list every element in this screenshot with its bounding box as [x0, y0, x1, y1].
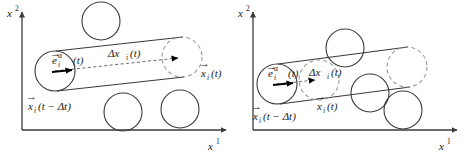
displacement-base: Δx	[107, 47, 119, 59]
swept-region-bottom-edge	[57, 77, 184, 91]
ghost-target-circle	[387, 47, 427, 87]
obstacle-circle	[161, 90, 199, 128]
y-axis-label: x 2	[6, 4, 19, 19]
short-displacement-panel: x 2 x 1	[235, 0, 469, 156]
obstacle-circle	[82, 2, 120, 40]
position-start-base: x	[252, 110, 258, 122]
x-axis-label-sup: 1	[216, 137, 220, 146]
y-axis-label-sup: 2	[15, 4, 19, 13]
position-start-arg: (t − Δt)	[263, 110, 296, 123]
position-end-base: x	[316, 100, 322, 112]
obstacle-circle	[326, 29, 364, 67]
y-axis-label-sup: 2	[246, 4, 250, 13]
x-axis-label-sup: 1	[447, 137, 451, 146]
direction-unit-vector-arrow	[273, 83, 293, 85]
direction-vector-sub: i	[58, 60, 60, 69]
left-panel-canvas: x 2 x 1	[0, 0, 235, 156]
obstacle-circles	[326, 29, 422, 129]
figure-root: x 2 x 1	[0, 0, 469, 156]
displacement-arg: (t)	[130, 47, 141, 60]
obstacle-circle	[104, 93, 142, 131]
y-axis-label-base: x	[6, 7, 12, 19]
long-displacement-panel: x 2 x 1	[0, 0, 235, 156]
displacement-label: Δx i (t)	[107, 47, 141, 62]
direction-vector-sup: α	[58, 51, 62, 60]
displacement-label: Δx i (t)	[308, 66, 342, 81]
position-end-sub: i	[207, 73, 209, 82]
position-end-base: x	[200, 67, 206, 79]
displacement-arg: (t)	[331, 66, 342, 79]
y-axis-label-base: x	[237, 7, 243, 19]
position-start-sub: i	[259, 116, 261, 125]
y-axis-label: x 2	[237, 4, 250, 19]
particle-end-circle	[162, 37, 202, 77]
x-axis-label: x 1	[438, 137, 451, 152]
direction-unit-vector-arrow	[52, 70, 72, 72]
axes-group	[22, 12, 226, 130]
swept-region-top-edge	[278, 47, 408, 64]
displacement-base: Δx	[308, 66, 320, 78]
position-end-label: → x i (t)	[199, 57, 222, 82]
direction-vector-sup: α	[274, 64, 278, 73]
position-end-label: → x i (t)	[315, 90, 338, 115]
position-end-arg: (t)	[327, 100, 338, 113]
direction-vector-arg: (t)	[73, 54, 84, 67]
displacement-sub: i	[126, 53, 128, 62]
position-start-base: x	[27, 100, 33, 112]
x-axis-label: x 1	[207, 137, 220, 152]
position-start-arg: (t − Δt)	[38, 100, 71, 113]
position-start-sub: i	[34, 106, 36, 115]
direction-vector-arg: (t)	[288, 67, 299, 80]
x-axis-label-base: x	[438, 140, 444, 152]
direction-vector-base: e	[52, 54, 57, 66]
displacement-sub: i	[327, 72, 329, 81]
position-start-label: → x i (t − Δt)	[26, 90, 71, 115]
direction-vector-sub: i	[274, 73, 276, 82]
right-panel-canvas: x 2 x 1	[235, 0, 469, 156]
obstacle-circle	[384, 91, 422, 129]
position-end-sub: i	[323, 106, 325, 115]
x-axis-label-base: x	[207, 140, 213, 152]
position-end-arg: (t)	[211, 67, 222, 80]
obstacle-circle	[351, 74, 389, 112]
direction-vector-base: e	[268, 67, 273, 79]
